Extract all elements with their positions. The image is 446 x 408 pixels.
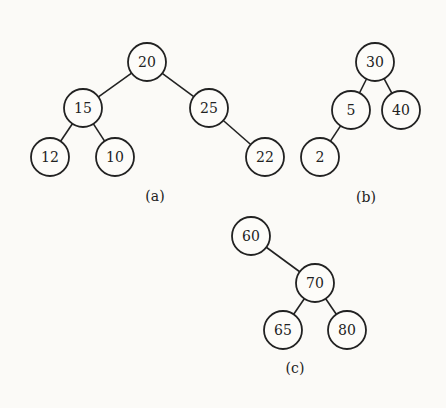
node-label: 20 (138, 54, 156, 70)
tree-node: 2 (301, 138, 339, 176)
binary-tree-diagrams: 201525121022(a)305402(b)60706580(c) (0, 0, 446, 408)
tree-node: 15 (64, 89, 102, 127)
edge-5-2 (330, 126, 340, 141)
node-label: 22 (256, 149, 274, 165)
node-label: 12 (41, 149, 59, 165)
tree-c: 60706580(c) (232, 217, 366, 376)
node-label: 15 (74, 100, 92, 116)
node-label: 70 (306, 275, 324, 291)
tree-node: 40 (382, 91, 420, 129)
edge-25-22 (223, 121, 250, 145)
edge-30-40 (384, 79, 392, 94)
subfigure-caption: (a) (145, 188, 164, 204)
tree-node: 70 (296, 264, 334, 302)
node-label: 80 (338, 322, 356, 338)
tree-node: 5 (332, 91, 370, 129)
tree-node: 65 (264, 311, 302, 349)
edge-30-5 (359, 79, 366, 93)
node-label: 65 (274, 322, 292, 338)
node-label: 5 (347, 102, 356, 118)
tree-node: 10 (96, 138, 134, 176)
tree-node: 22 (246, 138, 284, 176)
tree-node: 30 (356, 43, 394, 81)
tree-a: 201525121022(a) (31, 43, 284, 204)
tree-node: 80 (328, 311, 366, 349)
edge-15-12 (61, 124, 73, 141)
edge-70-65 (294, 299, 305, 315)
node-label: 25 (200, 100, 218, 116)
edge-60-70 (266, 247, 299, 272)
edge-15-10 (93, 124, 104, 141)
edge-20-25 (162, 73, 193, 96)
tree-node: 60 (232, 217, 270, 255)
node-label: 60 (242, 228, 260, 244)
subfigure-caption: (c) (286, 360, 305, 376)
node-label: 30 (366, 54, 384, 70)
subfigure-caption: (b) (356, 189, 376, 205)
tree-b: 305402(b) (301, 43, 420, 205)
tree-node: 12 (31, 138, 69, 176)
edge-70-80 (326, 299, 337, 315)
tree-node: 20 (128, 43, 166, 81)
node-label: 2 (316, 149, 325, 165)
tree-node: 25 (190, 89, 228, 127)
edge-20-15 (98, 73, 131, 97)
node-label: 10 (106, 149, 124, 165)
node-label: 40 (392, 102, 410, 118)
